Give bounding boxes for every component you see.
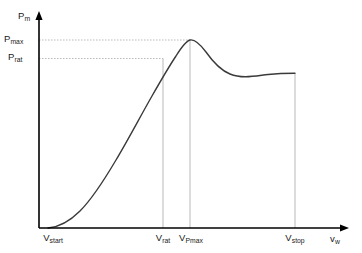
chart-canvas [0,0,362,253]
x-tick-label-v-stop: Vstop [275,233,315,243]
x-tick-v-start-base: V [43,232,49,243]
power-curve-figure: Pm Pmax Prat Vstart Vrat VPmax Vstop vw [0,0,362,253]
x-tick-label-v-pmax: VPmax [169,233,213,243]
x-tick-v-pmax-sub: Pmax [186,237,203,244]
y-axis-title: Pm [18,11,30,21]
y-axis-arrowhead [35,11,42,20]
y-tick-p-max-sub: max [10,38,23,45]
y-tick-label-p-rat: Prat [8,52,22,62]
x-tick-v-pmax-base: V [179,232,185,243]
x-tick-v-start-sub: start [50,237,63,244]
x-tick-v-stop-sub: stop [292,237,305,244]
x-tick-label-v-start: Vstart [33,233,73,243]
x-tick-v-stop-base: V [285,232,291,243]
y-tick-p-rat-sub: rat [14,56,22,63]
y-tick-label-p-max: Pmax [4,34,23,44]
x-axis-title: vw [322,234,348,244]
x-axis-arrowhead [340,224,349,231]
power-curve-line [48,40,295,228]
y-axis-title-sub: m [24,15,30,22]
x-axis-title-sub: w [335,238,340,245]
